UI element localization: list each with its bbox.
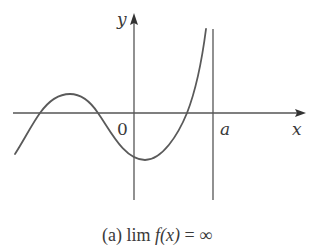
caption-prefix: (a) lim (102, 225, 155, 245)
function-curve (15, 29, 206, 160)
limit-graph: y 0 a x (0, 0, 314, 210)
asymptote-label: a (220, 121, 230, 138)
y-axis-label: y (117, 11, 127, 28)
figure-caption: (a) lim f(x) = ∞ (0, 225, 314, 246)
graph-canvas (0, 0, 314, 210)
caption-function: f(x) (155, 225, 180, 245)
origin-label: 0 (117, 121, 128, 138)
x-axis-label: x (292, 121, 302, 138)
caption-suffix: = ∞ (180, 225, 212, 245)
